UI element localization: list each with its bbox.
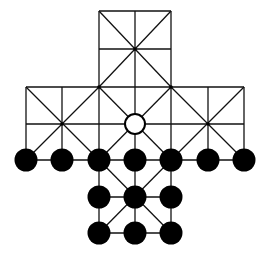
black-piece[interactable] [51,149,74,172]
black-piece[interactable] [124,149,147,172]
intersection-dot [60,122,64,126]
intersection-dot [206,122,210,126]
black-piece[interactable] [88,186,111,209]
black-piece[interactable] [88,149,111,172]
black-piece[interactable] [233,149,256,172]
intersection-dot [133,47,137,51]
white-piece[interactable] [125,114,145,134]
black-piece[interactable] [124,222,147,245]
black-piece[interactable] [15,149,38,172]
black-piece[interactable] [124,186,147,209]
black-piece[interactable] [88,222,111,245]
black-piece[interactable] [197,149,220,172]
black-piece[interactable] [160,149,183,172]
game-board [0,0,270,260]
black-piece[interactable] [160,222,183,245]
intersection-dot [97,85,101,89]
black-piece[interactable] [160,186,183,209]
intersection-dot [169,85,173,89]
